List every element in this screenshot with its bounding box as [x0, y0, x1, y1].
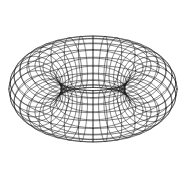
wireframe-torus-svg: [0, 0, 187, 180]
figure-background: [0, 0, 187, 180]
torus-figure-canvas: [0, 0, 187, 180]
